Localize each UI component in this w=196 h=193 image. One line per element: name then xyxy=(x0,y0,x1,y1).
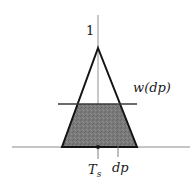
weight-function-paren: ) xyxy=(166,80,171,95)
weight-function-name: w( xyxy=(133,80,149,95)
peak-value-label: 1 xyxy=(86,23,94,38)
peak-value-text: 1 xyxy=(86,23,94,38)
ts-axis-label: Ts xyxy=(88,162,101,179)
dp-label-text: dp xyxy=(112,160,129,175)
triangular-weight-diagram: 1 w(dp) Ts dp xyxy=(0,0,196,193)
weight-function-arg: dp xyxy=(149,80,166,95)
ts-marker-dot xyxy=(96,145,100,149)
dp-axis-label: dp xyxy=(112,160,129,175)
ts-label-subscript: s xyxy=(97,169,102,179)
ts-label-base: T xyxy=(88,162,97,177)
weight-function-label: w(dp) xyxy=(133,80,171,95)
